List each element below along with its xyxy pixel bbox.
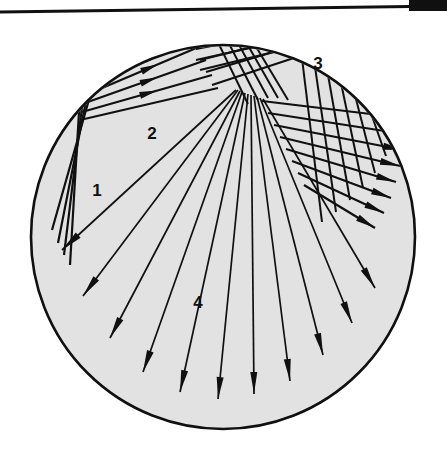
region-label-2: 2 — [147, 124, 156, 143]
region-label-1: 1 — [92, 181, 101, 200]
corner-bar — [409, 0, 447, 11]
figure-container: 1234 — [0, 0, 447, 455]
ray-diagram-svg: 1234 — [0, 0, 447, 455]
region-label-3: 3 — [313, 54, 322, 73]
region-label-4: 4 — [193, 293, 203, 312]
